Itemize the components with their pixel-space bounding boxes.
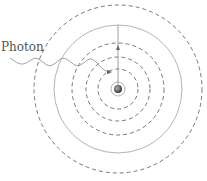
bohr-model-diagram: Photon <box>0 0 207 181</box>
transition-arrow-icon <box>116 45 120 50</box>
photon-label: Photon <box>1 40 44 54</box>
